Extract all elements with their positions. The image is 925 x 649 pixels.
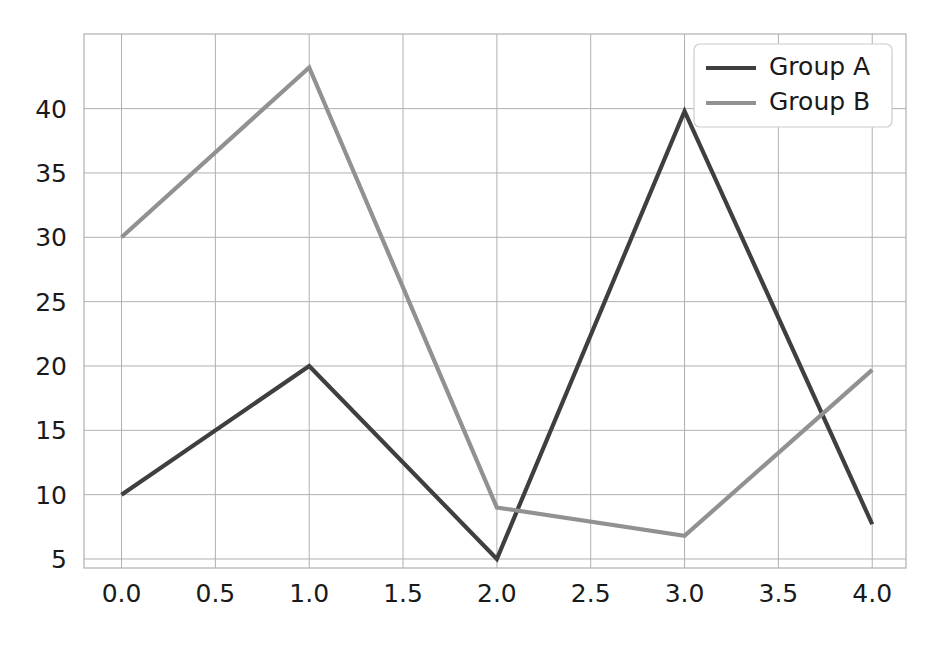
y-tick-label: 5 [51,545,67,574]
legend-label-group-b: Group B [769,87,870,116]
x-tick-label: 1.0 [289,579,329,608]
y-tick-label: 15 [35,416,67,445]
x-axis-tick-labels: 0.00.51.01.52.02.53.03.54.0 [102,579,892,608]
x-tick-label: 2.5 [571,579,611,608]
x-tick-label: 0.0 [102,579,142,608]
chart-legend[interactable]: Group AGroup B [694,44,892,127]
x-tick-label: 1.5 [383,579,423,608]
y-tick-label: 20 [35,352,67,381]
x-tick-label: 4.0 [852,579,892,608]
y-tick-label: 25 [35,288,67,317]
x-tick-label: 2.0 [477,579,517,608]
x-tick-label: 0.5 [195,579,235,608]
x-tick-label: 3.5 [759,579,799,608]
y-tick-label: 40 [35,95,67,124]
y-tick-label: 10 [35,481,67,510]
y-tick-label: 35 [35,159,67,188]
chart-figure: 510152025303540 0.00.51.01.52.02.53.03.5… [0,0,925,649]
legend-label-group-a: Group A [769,52,870,81]
y-tick-label: 30 [35,223,67,252]
x-tick-label: 3.0 [665,579,705,608]
line-chart-canvas: 510152025303540 0.00.51.01.52.02.53.03.5… [0,0,925,649]
